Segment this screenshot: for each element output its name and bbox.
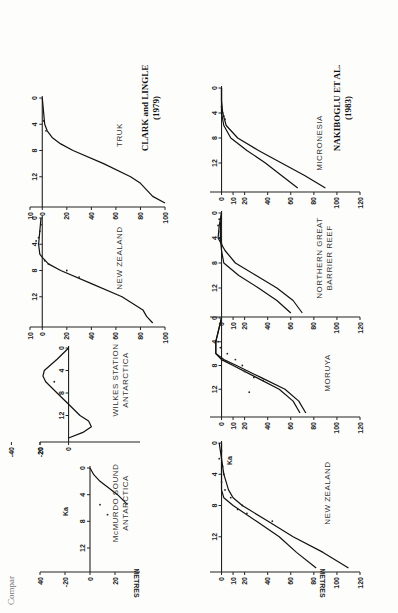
panel-label-micronesia: MICRONESIA	[315, 115, 324, 171]
y-axis-label-bottom: METRES	[319, 568, 326, 598]
panel-label-wilkes: WILKES STATION	[111, 344, 120, 417]
panel-label-mcmurdo-2: ANTARCTICA	[121, 475, 130, 531]
source-title-clark: CLARK and LINGLE	[140, 65, 150, 152]
figure-page: 0481240200-2004812200-20-400481210020406…	[0, 0, 398, 613]
panel-label-mcmurdo: McMURDO SOUND	[111, 464, 120, 543]
panel-label-ngbr: NORTHERN GREAT	[315, 217, 324, 298]
panel-label-moruya: MORUYA	[323, 354, 332, 392]
source-year-nakiboglu: (1983)	[343, 96, 353, 120]
panel-label-wilkes-2: ANTARCTICA	[121, 352, 130, 408]
source-title-nakiboglu: NAKIBOGLU ET AL.	[332, 65, 342, 152]
panel-label-truk: TRUK	[115, 123, 124, 147]
figure-labels: Compar CLARK and LINGLE (1979) NAKIBOGLU…	[0, 0, 398, 613]
panel-label-new-zealand-clark: NEW ZEALAND	[115, 226, 124, 289]
y-axis-label-top: METRES	[133, 568, 140, 598]
panel-label-ngbr-2: BARRIER REEF	[325, 225, 334, 290]
x-axis-label-mcmurdo: Ka	[62, 507, 69, 516]
figure-caption: Compar	[6, 576, 16, 605]
x-axis-label-nz-bottom: Ka	[226, 456, 233, 465]
source-year-clark: (1979)	[151, 96, 161, 120]
panel-label-new-zealand-nakiboglu: NEW ZEALAND	[323, 461, 332, 524]
